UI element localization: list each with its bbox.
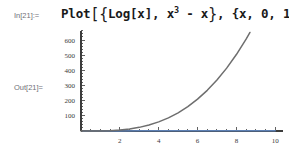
y-tick-label: 300 — [65, 82, 76, 90]
y-tick-label: 100 — [65, 112, 76, 120]
input-expression[interactable]: Plot[{Log[x], x3 - x}, {x, 0, 10}] — [61, 5, 289, 23]
token-range: {x, 0, 10} — [232, 6, 289, 21]
token-comma-2: , — [217, 6, 232, 21]
output-cell-label: Out[21]= — [14, 83, 43, 92]
y-tick-label: 400 — [65, 67, 76, 75]
data-series — [81, 32, 275, 131]
x-tick-labels: 246810 — [118, 137, 279, 145]
token-open-brace: { — [99, 5, 108, 23]
x-tick-label: 4 — [157, 137, 161, 145]
x-tick-label: 10 — [272, 137, 280, 145]
token-function: Plot — [61, 6, 90, 21]
output-cell[interactable]: Out[21]= 100200300400500600 246810 — [0, 30, 289, 159]
input-cell[interactable]: In[21]:= Plot[{Log[x], x3 - x}, {x, 0, 1… — [0, 0, 289, 30]
input-cell-label: In[21]:= — [14, 11, 39, 20]
token-open-bracket: [ — [90, 5, 99, 23]
y-tick-label: 500 — [65, 52, 76, 60]
plot-graphic[interactable]: 100200300400500600 246810 — [55, 30, 289, 159]
x-tick-label: 6 — [196, 137, 200, 145]
token-comma-1: , — [152, 6, 167, 21]
token-close-brace: } — [208, 5, 217, 23]
plot-svg: 100200300400500600 246810 — [55, 30, 289, 159]
mathematica-notebook: In[21]:= Plot[{Log[x], x3 - x}, {x, 0, 1… — [0, 0, 289, 159]
y-tick-label: 200 — [65, 97, 76, 105]
x-tick-label: 8 — [235, 137, 239, 145]
token-arg-cubic-tail: - x — [179, 6, 208, 21]
y-tick-label: 600 — [65, 37, 76, 45]
token-arg-cubic-base: x — [167, 6, 174, 21]
axes — [81, 31, 283, 131]
x-tick-label: 2 — [118, 137, 122, 145]
token-arg-log: Log[x] — [108, 6, 152, 21]
series-path — [81, 32, 250, 131]
y-tick-labels: 100200300400500600 — [65, 37, 76, 121]
